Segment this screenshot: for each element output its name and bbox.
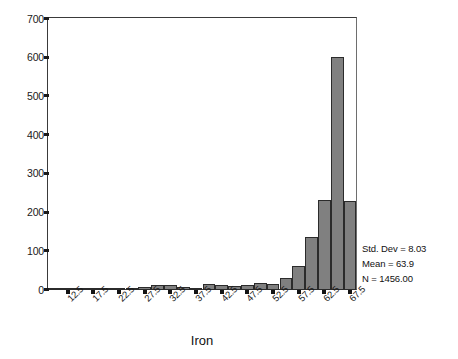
x-tick-label: 27.5 [142, 283, 162, 303]
x-tick-label: 57.5 [296, 283, 316, 303]
statistics-annotation: Std. Dev = 8.03 Mean = 63.9 N = 1456.00 [362, 241, 458, 286]
mean-text: Mean = 63.9 [362, 256, 458, 271]
x-tick-label: 42.5 [219, 283, 239, 303]
x-tick-label: 22.5 [116, 283, 136, 303]
x-tick-label: 67.5 [347, 283, 367, 303]
std-dev-text: Std. Dev = 8.03 [362, 241, 458, 256]
histogram-figure: 0100200300400500600700 12.517.522.527.53… [0, 0, 458, 359]
x-axis: 12.517.522.527.532.537.542.547.552.557.5… [0, 0, 458, 359]
x-tick-label: 37.5 [193, 283, 213, 303]
n-text: N = 1456.00 [362, 271, 458, 286]
x-tick-label: 12.5 [65, 283, 85, 303]
x-tick-label: 32.5 [167, 283, 187, 303]
x-tick-label: 62.5 [321, 283, 341, 303]
x-tick-label: 17.5 [90, 283, 110, 303]
x-tick-label: 52.5 [270, 283, 290, 303]
x-tick-label: 47.5 [244, 283, 264, 303]
x-axis-title: Iron [0, 333, 404, 348]
